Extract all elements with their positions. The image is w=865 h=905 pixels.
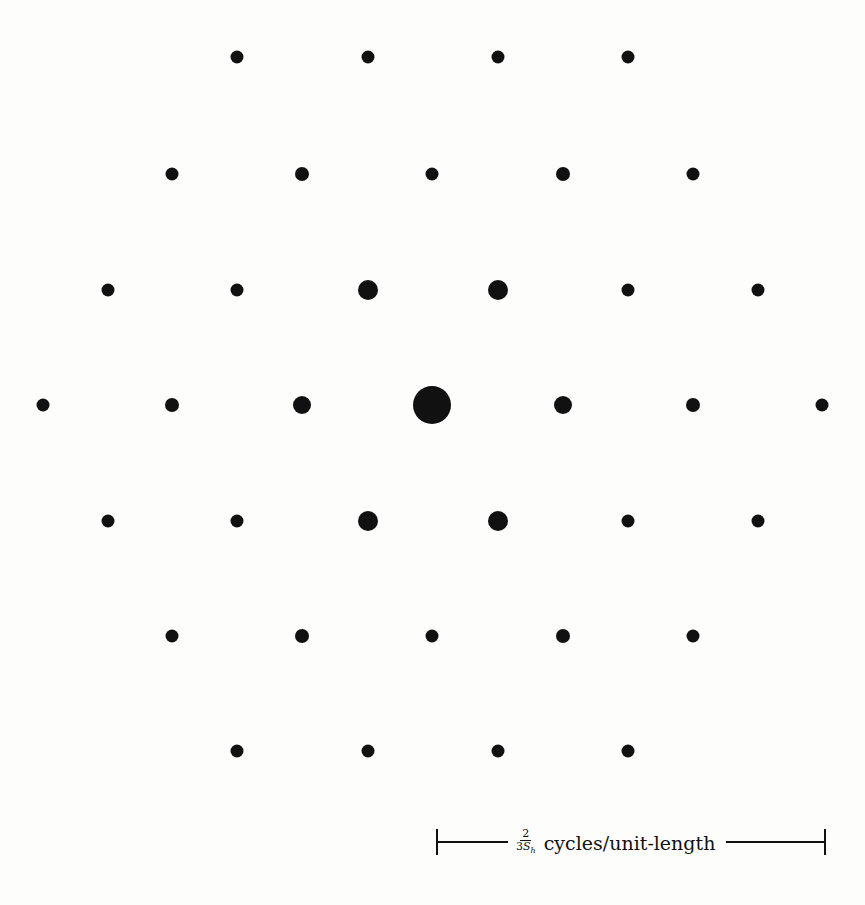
lattice-dot <box>622 745 635 758</box>
lattice-dot <box>622 284 635 297</box>
lattice-dot <box>293 396 311 414</box>
lattice-dot <box>556 629 570 643</box>
lattice-dot <box>362 745 375 758</box>
denominator-coeff: 3 <box>516 840 523 853</box>
lattice-dot <box>556 167 570 181</box>
lattice-dot <box>37 399 50 412</box>
center-dot <box>413 386 451 424</box>
scale-unit-text: cycles/unit-length <box>544 832 716 854</box>
scale-bar: 2 3Sh cycles/unit-length <box>436 826 826 860</box>
denominator-var: S <box>523 840 531 853</box>
lattice-dot <box>622 515 635 528</box>
lattice-dot <box>554 396 572 414</box>
lattice-dot <box>492 745 505 758</box>
lattice-dot <box>295 167 309 181</box>
lattice-dot <box>488 280 508 300</box>
lattice-dot <box>231 51 244 64</box>
lattice-dot <box>358 511 378 531</box>
lattice-dot <box>166 168 179 181</box>
lattice-dot <box>492 51 505 64</box>
lattice-dot <box>752 515 765 528</box>
lattice-dot <box>816 399 829 412</box>
scale-fraction: 2 3Sh <box>516 828 536 857</box>
fraction-denominator: 3Sh <box>516 841 536 857</box>
lattice-dot <box>687 630 700 643</box>
lattice-dot <box>295 629 309 643</box>
lattice-dot <box>102 515 115 528</box>
lattice-dot <box>686 398 700 412</box>
lattice-diagram <box>0 0 865 905</box>
scale-bar-label: 2 3Sh cycles/unit-length <box>516 826 715 860</box>
scale-bar-right-line <box>726 841 826 843</box>
lattice-dot <box>622 51 635 64</box>
lattice-dot <box>231 284 244 297</box>
lattice-dot <box>362 51 375 64</box>
lattice-dot <box>426 168 439 181</box>
lattice-dot <box>358 280 378 300</box>
lattice-dot <box>102 284 115 297</box>
scale-bar-right-tick <box>824 829 826 855</box>
scale-bar-left-line <box>436 841 508 843</box>
lattice-dot <box>687 168 700 181</box>
lattice-dot <box>231 745 244 758</box>
lattice-dot <box>166 630 179 643</box>
lattice-dot <box>426 630 439 643</box>
lattice-dot <box>165 398 179 412</box>
lattice-dot <box>752 284 765 297</box>
lattice-dot <box>231 515 244 528</box>
denominator-sub: h <box>531 847 536 856</box>
lattice-dot <box>488 511 508 531</box>
